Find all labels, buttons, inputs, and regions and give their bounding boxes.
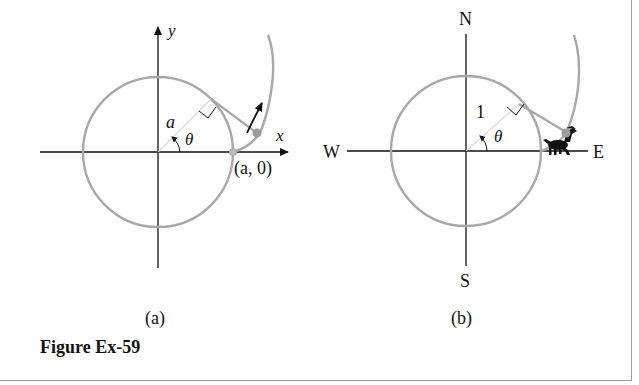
panel-b: N S W E 1 θ (b) [323, 9, 604, 329]
angle-label: θ [185, 130, 193, 149]
figure-canvas: y x a θ (a, 0) (a) [0, 0, 639, 385]
panel-b-label: (b) [451, 308, 472, 329]
angle-label: θ [494, 127, 502, 146]
south-label: S [460, 271, 470, 291]
pursuit-curve [541, 35, 579, 151]
radius-label: 1 [476, 102, 485, 122]
moving-point [253, 129, 262, 138]
west-label: W [323, 142, 340, 162]
dog-position-point [562, 129, 571, 138]
leash-line [519, 104, 566, 132]
y-axis-label: y [166, 21, 176, 40]
panel-a: y x a θ (a, 0) (a) [40, 21, 288, 329]
x-axis-label: x [275, 126, 284, 145]
motion-arrow [247, 103, 262, 133]
panel-a-label: (a) [145, 308, 165, 329]
radius-label: a [166, 112, 175, 132]
north-label: N [459, 9, 472, 29]
point-label: (a, 0) [234, 158, 272, 179]
start-point [230, 149, 237, 156]
east-label: E [593, 142, 604, 162]
angle-arc [172, 137, 180, 152]
figure-caption: Figure Ex-59 [40, 337, 140, 358]
